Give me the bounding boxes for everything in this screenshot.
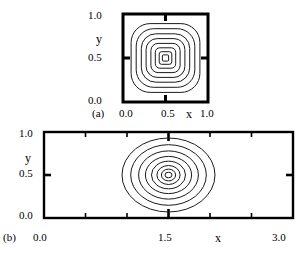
panel-b-yaxis-label: y	[25, 152, 31, 164]
panel-a-contour-plot	[121, 12, 210, 104]
panel-a-ytick-bottom: 0.0	[88, 95, 102, 106]
panel-a-yaxis-label: y	[96, 33, 102, 45]
panel-a-xtick-left: 0.0	[119, 108, 133, 119]
panel-b-ytick-top: 1.0	[19, 128, 33, 139]
panel-b-xtick-mid: 1.5	[158, 232, 172, 243]
panel-a-xaxis-label: x	[186, 108, 192, 120]
panel-b-ytick-bottom: 0.0	[19, 210, 33, 221]
panel-b-xtick-left: 0.0	[33, 232, 47, 243]
panel-b-xaxis-label: x	[215, 232, 221, 244]
panel-b-tag: (b)	[3, 232, 16, 243]
panel-b-contour-plot	[42, 130, 295, 220]
panel-b-ytick-mid: 0.5	[19, 168, 33, 179]
panel-b-xtick-right: 3.0	[272, 232, 286, 243]
panel-a-xtick-mid: 0.5	[161, 108, 175, 119]
panel-a-xtick-right: 1.0	[200, 108, 214, 119]
panel-a-ytick-top: 1.0	[88, 10, 102, 21]
panel-a-ytick-mid: 0.5	[88, 52, 102, 63]
contour-figure: 1.0 y 0.5 0.0	[0, 0, 303, 253]
panel-a-tag: (a)	[92, 108, 104, 119]
